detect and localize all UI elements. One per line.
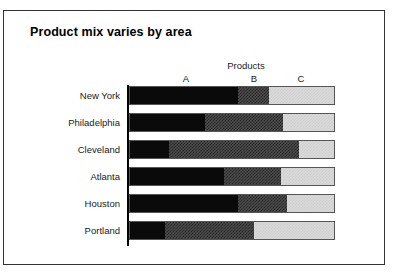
bar-segment-b (238, 195, 287, 212)
bar-segment-b (169, 141, 300, 158)
bar-segment-c (281, 168, 334, 185)
bar-segment-c (287, 195, 334, 212)
category-label: Houston (15, 198, 120, 209)
bar-segment-c (283, 114, 334, 131)
category-label: Cleveland (15, 144, 120, 155)
stacked-bar (129, 167, 335, 186)
stacked-bar (129, 221, 335, 240)
bar-segment-a (130, 168, 224, 185)
category-label: Portland (15, 225, 120, 236)
stacked-bar (129, 140, 335, 159)
bar-segment-a (130, 222, 165, 239)
category-label: Atlanta (15, 171, 120, 182)
stacked-bar (129, 194, 335, 213)
bar-segment-a (130, 114, 205, 131)
category-label: Philadelphia (15, 117, 120, 128)
plot-area: New YorkPhiladelphiaClevelandAtlantaHous… (0, 0, 393, 273)
bar-segment-b (224, 168, 281, 185)
bar-segment-b (165, 222, 255, 239)
bar-segment-b (238, 87, 269, 104)
bar-segment-c (254, 222, 334, 239)
bar-segment-a (130, 87, 238, 104)
stacked-bar (129, 86, 335, 105)
bar-segment-c (269, 87, 334, 104)
bar-segment-b (205, 114, 283, 131)
stacked-bar (129, 113, 335, 132)
bar-segment-a (130, 141, 169, 158)
bar-segment-c (299, 141, 334, 158)
bar-segment-a (130, 195, 238, 212)
category-label: New York (15, 90, 120, 101)
